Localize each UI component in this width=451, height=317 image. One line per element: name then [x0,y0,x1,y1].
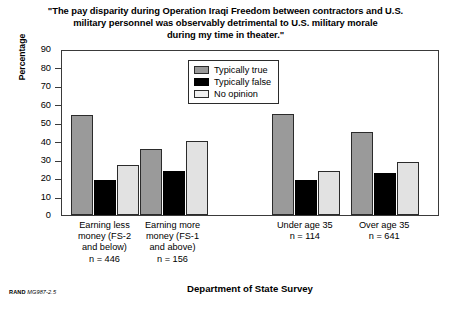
bar [140,149,162,215]
chart-title-line-1: "The pay disparity during Operation Iraq… [18,5,433,17]
bar [295,180,317,215]
bar [374,173,396,215]
bar [163,171,185,215]
x-axis-category-line: n = 641 [334,231,434,242]
x-axis-category-line: and above) [123,242,223,253]
y-tick-label: 40 [9,138,51,147]
bar [397,162,419,215]
bar [186,141,208,215]
x-axis-category-label: Over age 35n = 641 [334,220,434,242]
y-tick-label: 20 [9,174,51,183]
bar [94,180,116,215]
x-axis-category-line: n = 156 [123,254,223,265]
legend-label-typically-true: Typically true [214,65,268,75]
bar [71,115,93,215]
chart-title-line-3: during my time in theater." [18,29,433,41]
rand-logo-text: RAND [9,289,26,295]
x-axis-category-line: money (FS-1 [123,231,223,242]
bar [272,114,294,215]
chart-title-line-2: military personnel was observably detrim… [18,17,433,29]
legend-swatch-typically-false [194,78,209,86]
legend-label-no-opinion: No opinion [214,89,258,99]
y-tick-label: 80 [9,64,51,73]
x-axis-category-line: Earning more [123,220,223,231]
legend-swatch-typically-true [194,66,209,74]
bar [117,165,139,215]
chart-legend: Typically true Typically false No opinio… [188,60,279,104]
figure: "The pay disparity during Operation Iraq… [0,0,451,317]
legend-label-typically-false: Typically false [214,77,271,87]
bar [351,132,373,215]
y-tick-label: 0 [9,211,51,220]
x-axis-title: Department of State Survey [61,283,439,294]
x-axis-category-label: Earning moremoney (FS-1and above)n = 156 [123,220,223,265]
y-tick-label: 60 [9,101,51,110]
x-axis-category-line: Over age 35 [334,220,434,231]
bar [318,171,340,215]
legend-item-typically-false: Typically false [194,76,271,88]
y-tick-label: 50 [9,119,51,128]
source-note: RAND MG987-2.5 [9,289,56,295]
y-tick-label: 70 [9,82,51,91]
rand-document-id: MG987-2.5 [27,289,56,295]
y-tick-label: 30 [9,156,51,165]
y-tick-label: 90 [9,45,51,54]
legend-item-typically-true: Typically true [194,64,271,76]
y-axis-ticks: 0102030405060708090 [0,0,61,317]
y-tick-label: 10 [9,193,51,202]
legend-item-no-opinion: No opinion [194,88,271,100]
chart-title: "The pay disparity during Operation Iraq… [18,5,433,42]
legend-swatch-no-opinion [194,90,209,98]
